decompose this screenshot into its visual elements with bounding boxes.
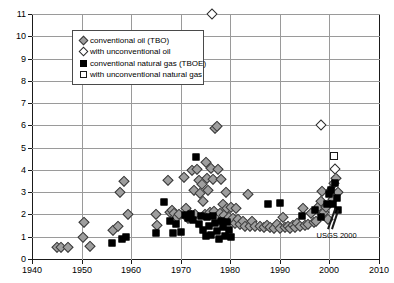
- gridline-horizontal: [32, 148, 380, 149]
- y-axis-tick-label: 8: [4, 77, 26, 86]
- y-axis-tick-label: 5: [4, 144, 26, 153]
- data-point: [177, 228, 184, 235]
- y-axis-tick-mark: [28, 192, 32, 193]
- data-point: [311, 207, 318, 214]
- data-point: [276, 199, 283, 206]
- data-point: [109, 240, 116, 247]
- y-axis-tick-mark: [28, 125, 32, 126]
- y-axis-tick-label: 6: [4, 121, 26, 130]
- data-point: [192, 153, 199, 160]
- y-axis-tick-mark: [28, 103, 32, 104]
- data-point: [318, 213, 325, 220]
- x-axis-tick-label: 1960: [111, 266, 151, 275]
- y-axis-tick-mark: [28, 148, 32, 149]
- data-point: [298, 213, 305, 220]
- y-axis-tick-label: 3: [4, 188, 26, 197]
- data-point: [332, 180, 339, 187]
- data-point: [224, 219, 231, 226]
- legend-label: conventional oil (TBO): [90, 36, 169, 45]
- data-point: [197, 213, 204, 220]
- data-point: [210, 212, 217, 219]
- usgs-annotation: USGS 2000: [317, 231, 357, 240]
- gridline-horizontal: [32, 170, 380, 171]
- white-diamond-icon: [77, 46, 90, 57]
- data-point: [172, 220, 179, 227]
- y-axis-tick-mark: [28, 237, 32, 238]
- x-axis-tick-label: 2010: [359, 266, 394, 275]
- data-point: [152, 229, 159, 236]
- legend-item-unconventional-oil: with unconventional oil: [77, 46, 199, 57]
- y-axis-tick-mark: [28, 36, 32, 37]
- x-axis-tick-mark: [329, 260, 330, 264]
- y-axis-tick-label: 2: [4, 210, 26, 219]
- gridline-horizontal: [32, 125, 380, 126]
- y-axis-tick-label: 7: [4, 99, 26, 108]
- x-axis-tick-label: 2000: [309, 266, 349, 275]
- y-axis-tick-label: 4: [4, 166, 26, 175]
- legend-item-conventional-oil: conventional oil (TBO): [77, 35, 199, 46]
- gray-diamond-icon: [77, 35, 90, 46]
- x-axis-tick-label: 1940: [12, 266, 52, 275]
- x-axis-tick-mark: [82, 260, 83, 264]
- y-axis-tick-mark: [28, 14, 32, 15]
- data-point: [226, 227, 233, 234]
- y-axis-tick-label: 9: [4, 55, 26, 64]
- y-axis-tick-label: 11: [4, 10, 26, 19]
- y-axis-tick-mark: [28, 170, 32, 171]
- x-axis-tick-mark: [131, 260, 132, 264]
- y-axis-tick-label: 0: [4, 255, 26, 264]
- gridline-horizontal: [32, 103, 380, 104]
- data-point: [160, 198, 167, 205]
- data-point: [264, 201, 271, 208]
- chart-legend: conventional oil (TBO) with unconvention…: [72, 30, 204, 85]
- x-axis-tick-label: 1970: [161, 266, 201, 275]
- data-point: [122, 233, 129, 240]
- x-axis-tick-mark: [280, 260, 281, 264]
- y-axis-tick-mark: [28, 81, 32, 82]
- x-axis-tick-mark: [230, 260, 231, 264]
- x-axis-tick-label: 1950: [62, 266, 102, 275]
- data-point: [333, 195, 340, 202]
- legend-label: with unconventional natural gas: [90, 70, 202, 79]
- y-axis-tick-mark: [28, 214, 32, 215]
- x-axis-tick-label: 1980: [210, 266, 250, 275]
- white-square-icon: [77, 69, 90, 80]
- x-axis-tick-mark: [32, 260, 33, 264]
- y-axis-tick-label: 10: [4, 32, 26, 41]
- data-point: [330, 152, 338, 160]
- x-axis-tick-mark: [181, 260, 182, 264]
- data-point: [169, 230, 176, 237]
- y-axis-tick-label: 1: [4, 233, 26, 242]
- legend-item-unconventional-gas: with unconventional natural gas: [77, 69, 199, 80]
- data-point: [328, 186, 335, 193]
- black-square-icon: [77, 58, 90, 69]
- legend-label: with unconventional oil: [90, 47, 171, 56]
- data-point: [228, 234, 235, 241]
- x-axis-tick-label: 1990: [260, 266, 300, 275]
- y-axis-tick-mark: [28, 59, 32, 60]
- x-axis-tick-mark: [379, 260, 380, 264]
- legend-label: conventional natural gas (TBOE): [90, 59, 206, 68]
- legend-item-conventional-gas: conventional natural gas (TBOE): [77, 58, 199, 69]
